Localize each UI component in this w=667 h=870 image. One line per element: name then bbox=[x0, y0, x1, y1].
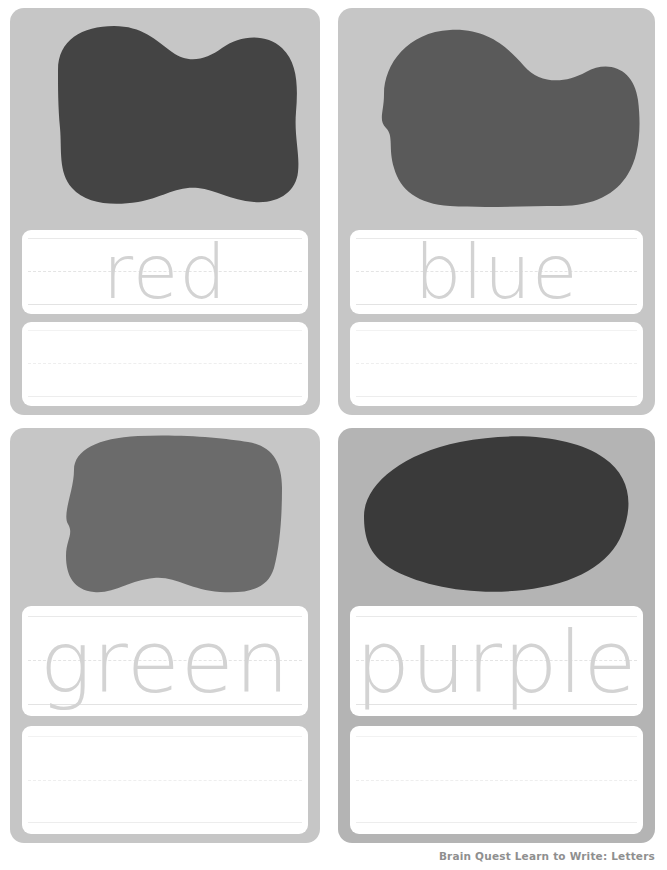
blob-area-purple bbox=[338, 428, 655, 608]
blob-area-green bbox=[10, 428, 320, 608]
color-card-grid: red blue bbox=[0, 0, 667, 845]
trace-word-green: green bbox=[22, 606, 308, 716]
guide-rule-base bbox=[28, 396, 302, 397]
color-card-red[interactable]: red bbox=[10, 8, 320, 415]
practice-line-box-red[interactable] bbox=[22, 322, 308, 406]
trace-word-red: red bbox=[22, 230, 308, 314]
footer-credit: Brain Quest Learn to Write: Letters bbox=[439, 850, 655, 862]
guide-rule-top bbox=[28, 736, 302, 737]
guide-rule-base bbox=[28, 822, 302, 823]
guide-rule-top bbox=[356, 330, 637, 331]
trace-line-box-purple[interactable]: purple bbox=[350, 606, 643, 716]
guide-rule-mid bbox=[28, 780, 302, 781]
blob-area-blue bbox=[338, 8, 655, 223]
trace-line-box-green[interactable]: green bbox=[22, 606, 308, 716]
guide-rule-base bbox=[356, 396, 637, 397]
practice-line-box-purple[interactable] bbox=[350, 726, 643, 834]
color-card-blue[interactable]: blue bbox=[338, 8, 655, 415]
trace-line-box-blue[interactable]: blue bbox=[350, 230, 643, 314]
worksheet-page: red blue bbox=[0, 0, 667, 870]
trace-line-box-red[interactable]: red bbox=[22, 230, 308, 314]
guide-rule-top bbox=[356, 736, 637, 737]
trace-word-purple: purple bbox=[350, 606, 643, 716]
color-blob-red-icon bbox=[10, 8, 320, 223]
guide-rule-base bbox=[356, 822, 637, 823]
color-blob-green-icon bbox=[10, 428, 320, 608]
guide-rule-top bbox=[28, 330, 302, 331]
guide-rule-mid bbox=[28, 363, 302, 364]
trace-word-blue: blue bbox=[350, 230, 643, 314]
blob-area-red bbox=[10, 8, 320, 223]
color-card-green[interactable]: green bbox=[10, 428, 320, 843]
color-blob-blue-icon bbox=[338, 8, 655, 223]
practice-line-box-green[interactable] bbox=[22, 726, 308, 834]
color-card-purple[interactable]: purple bbox=[338, 428, 655, 843]
guide-rule-mid bbox=[356, 363, 637, 364]
practice-line-box-blue[interactable] bbox=[350, 322, 643, 406]
color-blob-purple-icon bbox=[338, 428, 655, 608]
guide-rule-mid bbox=[356, 780, 637, 781]
